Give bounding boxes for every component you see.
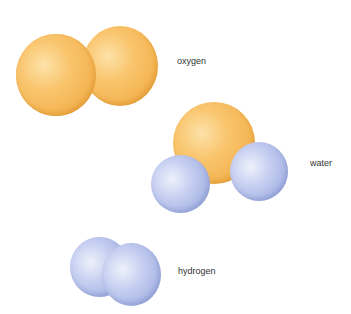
hydrogen-atom-2 bbox=[102, 243, 161, 306]
water-hydrogen-atom-left bbox=[151, 155, 210, 213]
water-hydrogen-atom-right bbox=[230, 142, 288, 201]
hydrogen-label: hydrogen bbox=[178, 266, 216, 277]
oxygen-label: oxygen bbox=[177, 56, 206, 67]
oxygen-atom-1-front bbox=[16, 34, 96, 116]
water-label: water bbox=[310, 158, 332, 169]
